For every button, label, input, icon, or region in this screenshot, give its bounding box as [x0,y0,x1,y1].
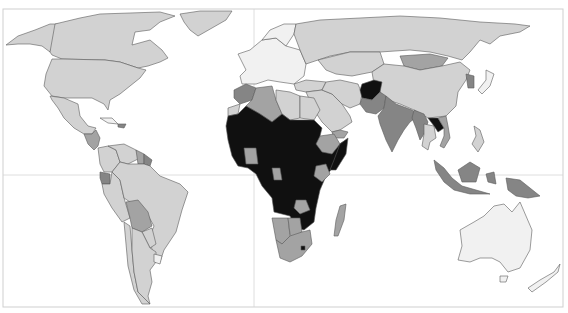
map-svg [0,0,568,313]
region-gabon[interactable] [272,168,282,180]
region-ghana-ivory-coast[interactable] [244,148,258,164]
region-lesotho[interactable] [301,246,305,250]
world-choropleth-map [0,0,568,313]
region-ecuador[interactable] [100,172,110,184]
